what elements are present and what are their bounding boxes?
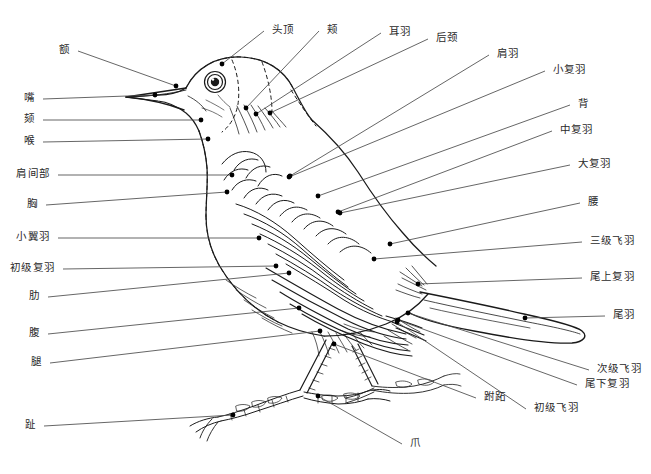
anchor-dot-tertials <box>372 257 377 262</box>
label-breast: 胸 <box>27 198 39 209</box>
anchor-dot-breast <box>225 190 230 195</box>
upper-tail-coverts <box>396 266 427 298</box>
anchor-dot-nape <box>268 111 273 116</box>
leader-line-ear-coverts <box>256 33 381 114</box>
anchor-dot-beak <box>153 93 158 98</box>
anchor-dot-alula <box>257 236 262 241</box>
anchor-dot-primary-coverts <box>274 264 279 269</box>
leader-lines <box>43 31 605 444</box>
label-primaries: 初级飞羽 <box>534 402 579 413</box>
leader-line-nape <box>270 39 428 113</box>
leg-far <box>346 344 461 403</box>
label-belly: 腹 <box>29 327 41 338</box>
leader-line-primary-coverts <box>63 266 276 269</box>
label-rump: 腰 <box>588 196 599 207</box>
label-crown: 头顶 <box>272 24 294 35</box>
label-ear-coverts: 耳羽 <box>389 26 411 37</box>
leader-line-tarsus <box>334 344 476 398</box>
leader-line-greater-coverts <box>340 165 570 213</box>
label-toe: 趾 <box>25 419 37 430</box>
body-outline <box>126 57 436 336</box>
anchor-dot-toe <box>231 413 236 418</box>
label-scapulars: 肩羽 <box>497 48 519 59</box>
label-forehead: 额 <box>59 44 71 55</box>
ear-covert-hatching <box>202 95 286 134</box>
label-tertials: 三级飞羽 <box>590 235 635 246</box>
label-cheek: 颊 <box>327 24 338 35</box>
anchor-dot-forehead <box>174 84 179 89</box>
label-beak: 嘴 <box>24 92 36 103</box>
label-secondaries: 次级飞羽 <box>597 363 642 374</box>
bird-illustration <box>126 57 585 441</box>
bird-anatomy-diagram: 额头顶颊耳羽后颈肩羽小复羽背中复羽大复羽腰三级飞羽尾上复羽尾羽次级飞羽尾下复羽初… <box>0 0 651 474</box>
leader-line-secondaries <box>408 313 589 370</box>
label-tail-feathers: 尾羽 <box>613 309 635 320</box>
label-flank: 肋 <box>29 290 41 301</box>
leader-line-thigh <box>50 331 320 363</box>
foot-detail <box>236 379 434 411</box>
leader-line-scapulars <box>290 55 489 176</box>
anchor-dot-flank <box>287 271 292 276</box>
anchor-dot-belly <box>297 306 302 311</box>
label-under-tail-coverts: 尾下复羽 <box>585 378 630 389</box>
anchor-dot-rump <box>388 242 393 247</box>
anchor-dot-interscapular <box>230 173 235 178</box>
label-claw: 爪 <box>410 437 421 448</box>
label-interscapular: 肩间部 <box>16 168 51 179</box>
label-median-coverts: 中复羽 <box>560 124 594 135</box>
label-greater-coverts: 大复羽 <box>578 158 612 169</box>
feather-tract-boundaries <box>186 57 316 322</box>
label-chin: 颏 <box>24 113 36 124</box>
label-nape: 后颈 <box>436 32 458 43</box>
anchor-dot-primaries <box>395 320 400 325</box>
anchor-dot-chin <box>199 118 204 123</box>
leader-line-back <box>318 105 570 196</box>
leader-line-forehead <box>78 51 176 86</box>
label-back: 背 <box>578 98 589 109</box>
leader-line-flank <box>48 273 289 297</box>
anchor-dot-claw <box>316 394 321 399</box>
anchor-dot-secondaries <box>406 311 411 316</box>
label-alula: 小翼羽 <box>16 231 51 242</box>
eye <box>205 72 226 93</box>
anchor-dot-thigh <box>318 329 323 334</box>
anchor-dot-ear-coverts <box>254 112 259 117</box>
label-primary-coverts: 初级复羽 <box>9 262 55 273</box>
leg-near <box>190 340 390 441</box>
anchor-dot-back <box>316 194 321 199</box>
leader-line-rump <box>390 203 580 244</box>
label-tarsus: 跗跖 <box>484 391 506 402</box>
leader-line-under-tail-coverts <box>398 320 577 385</box>
leader-line-belly <box>48 308 299 334</box>
label-upper-tail-coverts: 尾上复羽 <box>590 271 635 282</box>
anchor-dot-lesser-coverts <box>287 175 292 180</box>
leader-line-breast <box>46 192 227 205</box>
leader-line-primaries <box>397 322 526 409</box>
anchor-dot-tail-feathers <box>523 316 528 321</box>
label-throat: 喉 <box>24 135 36 146</box>
leader-line-tertials <box>374 242 582 259</box>
leader-line-throat <box>43 139 208 142</box>
leader-line-claw <box>318 396 402 444</box>
label-lesser-coverts: 小复羽 <box>553 64 587 75</box>
label-thigh: 腿 <box>31 356 43 367</box>
leader-line-toe <box>44 415 233 426</box>
anchor-dot-cheek <box>244 106 249 111</box>
anchor-dot-tarsus <box>332 342 337 347</box>
anchor-dot-greater-coverts <box>338 211 343 216</box>
anchor-dot-upper-tail-coverts <box>416 282 421 287</box>
anchor-dot-crown <box>220 62 225 67</box>
leader-line-lesser-coverts <box>289 71 545 177</box>
leader-line-upper-tail-coverts <box>418 278 582 284</box>
anchor-dot-throat <box>206 137 211 142</box>
beak <box>126 88 206 111</box>
